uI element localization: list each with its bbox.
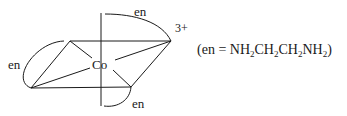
ligand-definition: (en = NH2CH2CH2NH2) bbox=[197, 42, 332, 58]
formula-ch2-a: CH2 bbox=[255, 42, 279, 57]
formula-ch2-b: CH2 bbox=[278, 42, 302, 57]
formula-nh2-a: NH2 bbox=[230, 42, 255, 57]
octahedral-diagram: en 3+ en Co en bbox=[0, 0, 347, 116]
equals-sign: = bbox=[215, 42, 230, 57]
charge-label: 3+ bbox=[175, 21, 188, 35]
definition-ligand: en bbox=[202, 42, 215, 57]
ligand-label-top: en bbox=[134, 4, 147, 19]
bond-co-bottom-right bbox=[113, 70, 131, 87]
formula-nh2-b: NH2 bbox=[302, 42, 327, 57]
metal-label: Co bbox=[92, 57, 107, 72]
paren-close: ) bbox=[327, 42, 332, 57]
ligand-label-left: en bbox=[8, 57, 21, 72]
ligand-label-bottom: en bbox=[132, 96, 145, 111]
bond-co-top-left bbox=[70, 41, 92, 58]
en-arc-bottom bbox=[104, 87, 131, 106]
en-arc-left bbox=[23, 41, 64, 88]
